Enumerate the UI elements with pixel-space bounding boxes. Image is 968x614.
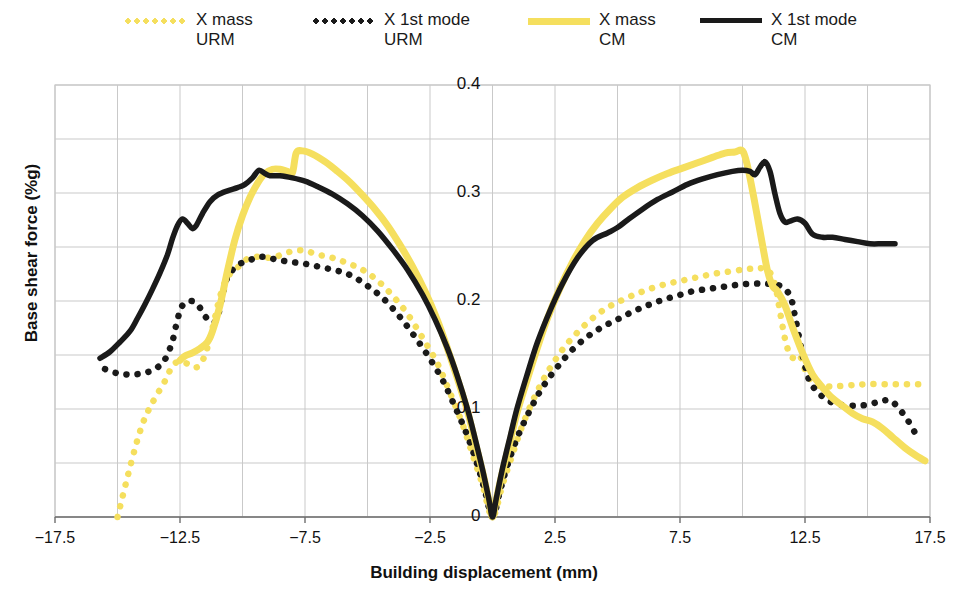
series-line-3 (100, 162, 895, 517)
y-tick-label: 0.2 (435, 290, 481, 310)
x-tick-label: 12.5 (770, 529, 840, 547)
x-tick-label: 2.5 (520, 529, 590, 547)
y-tick-label: 0.4 (435, 74, 481, 94)
grid-lines (55, 85, 930, 517)
x-tick-label: −17.5 (20, 529, 90, 547)
chart-page: X mass URMX 1st mode URMX mass CMX 1st m… (0, 0, 968, 614)
y-tick-label: 0 (435, 506, 481, 526)
x-tick-label: 7.5 (645, 529, 715, 547)
x-tick-label: −7.5 (270, 529, 340, 547)
x-tick-label: −2.5 (395, 529, 465, 547)
chart-canvas (0, 0, 968, 614)
plot-area: Base shear force (%g) Building displacem… (0, 0, 968, 614)
x-tick-label: 17.5 (895, 529, 965, 547)
series-line-2 (180, 150, 925, 517)
series-line-0 (118, 250, 923, 517)
y-tick-label: 0.1 (435, 398, 481, 418)
y-tick-label: 0.3 (435, 182, 481, 202)
data-series-group (100, 150, 925, 517)
y-axis-title: Base shear force (%g) (22, 53, 42, 453)
x-tick-label: −12.5 (145, 529, 215, 547)
series-line-1 (105, 257, 915, 517)
x-axis-title: Building displacement (mm) (0, 563, 968, 583)
